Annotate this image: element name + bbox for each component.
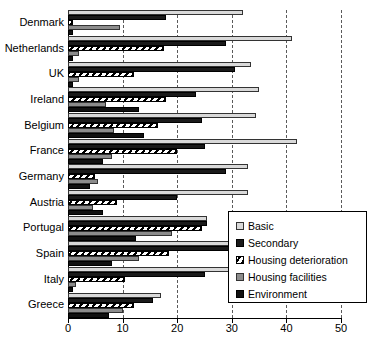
bar-italy-environment [68, 287, 73, 292]
x-tick-label-20: 20 [162, 322, 192, 334]
bar-germany-environment [68, 184, 90, 189]
category-label-spain: Spain [0, 247, 64, 259]
x-tick-label-0: 0 [53, 322, 83, 334]
bar-netherlands-housing-deterioration [68, 46, 164, 51]
x-tick-label-30: 30 [217, 322, 247, 334]
legend-label-basic: Basic [248, 221, 274, 232]
x-tick-label-40: 40 [271, 322, 301, 334]
legend-label-housing-facilities: Housing facilities [248, 272, 327, 283]
bar-belgium-environment [68, 133, 144, 138]
category-label-uk: UK [0, 67, 64, 79]
category-label-denmark: Denmark [0, 16, 64, 28]
category-label-portugal: Portugal [0, 221, 64, 233]
bar-denmark-environment [68, 30, 73, 35]
x-tick-label-10: 10 [108, 322, 138, 334]
bar-spain-environment [68, 261, 112, 266]
bar-portugal-environment [68, 236, 136, 241]
legend-item-basic: Basic [236, 218, 361, 234]
bar-uk-environment [68, 82, 73, 87]
category-label-netherlands: Netherlands [0, 42, 64, 54]
legend-label-secondary: Secondary [248, 238, 298, 249]
legend-item-housing-deterioration: Housing deterioration [236, 252, 361, 268]
bar-ireland-environment [68, 107, 139, 112]
category-label-greece: Greece [0, 298, 64, 310]
category-label-france: France [0, 144, 64, 156]
bar-denmark-housing-facilities [68, 25, 120, 30]
category-label-belgium: Belgium [0, 119, 64, 131]
legend-swatch-housing-facilities [236, 273, 244, 281]
bar-greece-environment [68, 313, 109, 318]
legend-swatch-housing-deterioration [236, 256, 244, 264]
bar-austria-environment [68, 210, 103, 215]
legend-item-housing-facilities: Housing facilities [236, 269, 361, 285]
legend-item-secondary: Secondary [236, 235, 361, 251]
legend-swatch-basic [236, 222, 244, 230]
bar-italy-housing-deterioration [68, 277, 125, 282]
legend-label-environment: Environment [248, 289, 307, 300]
bar-france-environment [68, 159, 103, 164]
x-tick-label-50: 50 [326, 322, 356, 334]
category-label-italy: Italy [0, 273, 64, 285]
legend: Basic Secondary Housing deterioration Ho… [228, 211, 367, 303]
category-label-ireland: Ireland [0, 93, 64, 105]
legend-swatch-secondary [236, 239, 244, 247]
category-label-germany: Germany [0, 170, 64, 182]
category-label-austria: Austria [0, 196, 64, 208]
bar-denmark-secondary [68, 15, 166, 20]
legend-swatch-environment [236, 290, 244, 298]
bar-chart: 01020304050 DenmarkNetherlandsUKIrelandB… [0, 0, 392, 353]
legend-label-housing-deterioration: Housing deterioration [248, 255, 348, 266]
legend-item-environment: Environment [236, 286, 361, 302]
bar-netherlands-environment [68, 56, 73, 61]
